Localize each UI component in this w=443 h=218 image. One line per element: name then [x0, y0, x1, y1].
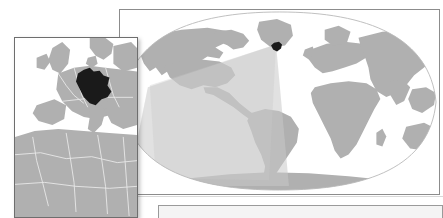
world-map-graphic	[120, 10, 439, 194]
inset-map-graphic	[15, 38, 137, 217]
locator-map-screenshot	[0, 0, 443, 218]
world-map-panel	[119, 9, 440, 195]
caption-bar	[158, 205, 443, 218]
divider-rule	[119, 196, 443, 197]
inset-map-panel	[14, 37, 138, 218]
